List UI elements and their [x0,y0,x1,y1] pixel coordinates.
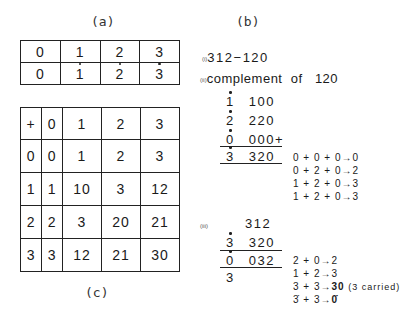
lead-digit: 3 [226,149,235,164]
cell: 1 [21,173,42,206]
cell: 0 [21,63,61,85]
ii-line-3: 0000+ [226,132,284,147]
cell: 2 [101,140,140,173]
digits: 100 [249,94,275,109]
header-cell: 0 [42,108,63,140]
ii-line-2: 2220 [226,113,275,128]
digits: 320 [249,235,275,250]
cell: 1 [42,173,63,206]
iii-step: 2 + 0→2 [293,255,338,266]
lead-digit: 0 [226,253,235,268]
ii-step: 1 + 2 + 0→3 [293,191,359,202]
cell: 3 [62,206,101,239]
step-result: 30 [332,281,345,292]
expression: 312−120 [207,50,268,65]
complement-title: complement of 120 [207,71,338,86]
cell-dotted: 1 [60,63,100,85]
iii-line-1: 312 [245,216,271,231]
table-c-addition: + 0 1 2 3 0 0 1 2 3 1 1 10 3 12 2 2 3 20… [20,107,180,272]
digits: 320 [249,149,275,164]
caption-a: (a) [91,14,114,29]
cell: 10 [62,173,101,206]
cell: 0 [21,41,61,63]
sum-rule [220,163,282,164]
cell: 21 [140,206,179,239]
cell: 3 [140,140,179,173]
header-cell: 2 [101,108,140,140]
cell: 1 [62,140,101,173]
ii-line-1: 1100 [226,94,275,109]
cell: 3 [21,239,42,272]
cell: 1 [60,41,100,63]
dotted-digit: 1 [76,66,85,82]
header-cell: 1 [62,108,101,140]
ii-step: 0 + 2 + 0→2 [293,165,359,176]
lead-digit: 3 [226,235,235,250]
lead-digit: 1 [226,94,235,109]
step-text: 2 + 0→2 [293,255,338,266]
cell: 3 [42,239,63,272]
part-b-ii-title: (ii)complement of 120 [200,71,338,86]
dotted-digit: 2 [115,66,124,82]
header-cell: 3 [140,108,179,140]
dotted-digit: 3 [155,66,164,82]
iii-line-4: 3 [226,270,235,285]
cell: 3 [140,41,180,63]
cell: 12 [62,239,101,272]
label-iii: (iii) [200,223,208,229]
cell: 0 [21,140,42,173]
step-text: 1 + 2→3 [293,268,338,279]
cell: 0 [42,140,63,173]
iii-step: 1 + 2→3 [293,268,338,279]
part-b-i: (i)312−120 [202,50,269,65]
digits: 032 [249,253,275,268]
cell: 21 [101,239,140,272]
iii-line-2: 3320 [226,235,275,250]
cell: 2 [21,206,42,239]
header-cell: + [21,108,42,140]
table-a: 0 1 2 3 0 1 2 3 [20,40,180,85]
lead-digit: 2 [226,113,235,128]
cell: 30 [140,239,179,272]
ii-step: 1 + 2 + 0→3 [293,178,359,189]
sum-rule [220,267,282,268]
step-note: (3 carried) [345,282,401,292]
cell-dotted: 2 [100,63,140,85]
plus-sign: + [275,132,284,147]
iii-step: 3̇ + 3→0̇ [293,294,338,305]
cell: 2 [100,41,140,63]
digits: 220 [249,113,275,128]
cell: 12 [140,173,179,206]
cell-dotted: 3 [140,63,180,85]
caption-c: (c) [85,285,108,300]
ii-step: 0 + 0 + 0→0 [293,152,359,163]
step-text: 3̇ + 3→ [293,294,332,305]
iii-step: 3 + 3→30 (3 carried) [293,281,400,292]
cell: 3 [101,173,140,206]
step-text: 3 + 3→ [293,281,332,292]
lead-digit: 0 [226,132,235,147]
iii-line-3: 0032 [226,253,275,268]
caption-b: (b) [236,14,259,29]
label-ii: (ii) [200,77,207,83]
cell: 2 [42,206,63,239]
step-result: 0̇ [332,294,339,305]
ii-line-4: 3320 [226,149,275,164]
digits: 000 [249,132,275,147]
cell: 20 [101,206,140,239]
